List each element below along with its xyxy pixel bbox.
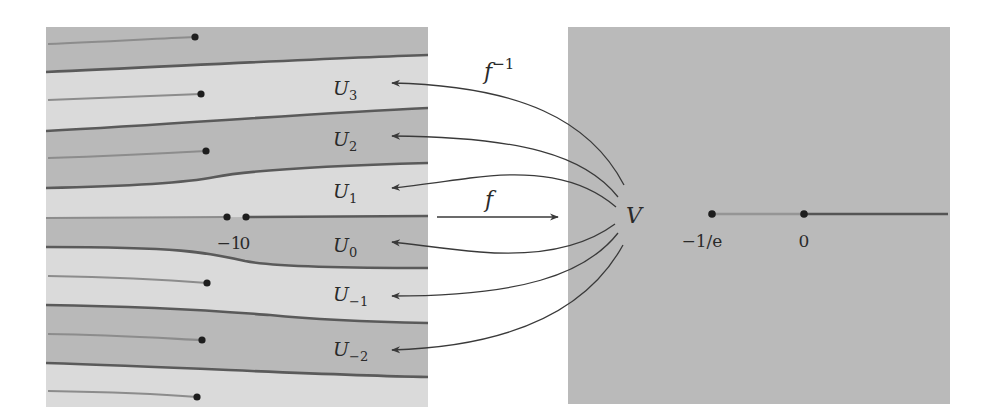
set-label-v: V xyxy=(626,203,644,228)
label-zero-right: 0 xyxy=(799,231,810,251)
point-minus-one-over-e xyxy=(708,210,716,218)
branch-point-dot xyxy=(198,336,205,343)
left-panel-w-plane xyxy=(46,27,428,407)
point-zero xyxy=(242,213,249,220)
branch-point-dot xyxy=(202,147,209,154)
label-minus-one: −1 xyxy=(216,233,241,253)
point-zero-right xyxy=(800,210,808,218)
label-minus-one-over-e: −1/e xyxy=(682,231,723,251)
branch-point-dot xyxy=(193,393,200,400)
branch-point-dot xyxy=(203,279,210,286)
lambert-w-diagram: −1 0 U3 U2 U1 U0 U−1 U−2 −1/e 0 V f f−1 xyxy=(0,0,987,420)
point-minus-one xyxy=(223,213,230,220)
negative-real-axis-cut xyxy=(46,217,228,218)
branch-point-dot xyxy=(191,33,198,40)
branch-point-dot xyxy=(197,90,204,97)
positive-real-axis xyxy=(245,216,428,217)
label-zero-left: 0 xyxy=(240,233,251,253)
inverse-map-label: f−1 xyxy=(482,55,514,84)
forward-map-label: f xyxy=(483,187,497,212)
